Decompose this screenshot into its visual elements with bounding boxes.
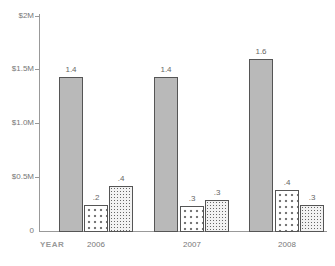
value-label-2007-c: .3 bbox=[202, 188, 232, 197]
bar-2006-series-2 bbox=[84, 205, 108, 232]
y-tick-label-1-0m: $1.0M bbox=[0, 118, 34, 127]
value-label-2007-a: 1.4 bbox=[151, 65, 181, 74]
bar-2006-series-1 bbox=[59, 77, 83, 232]
x-label-2006: 2006 bbox=[76, 240, 116, 249]
y-tick bbox=[35, 16, 40, 17]
y-tick bbox=[35, 177, 40, 178]
bar-2008-series-1 bbox=[249, 59, 273, 232]
bar-2007-series-3 bbox=[205, 200, 229, 232]
bar-2008-series-2 bbox=[275, 190, 299, 232]
value-label-2006-b: .2 bbox=[81, 193, 111, 202]
value-label-2006-a: 1.4 bbox=[56, 65, 86, 74]
y-tick bbox=[35, 69, 40, 70]
y-tick bbox=[35, 123, 40, 124]
bar-2008-series-3 bbox=[300, 205, 324, 232]
y-tick-label-2m: $2M bbox=[0, 11, 34, 20]
bar-2007-series-2 bbox=[180, 206, 204, 232]
x-label-2008: 2008 bbox=[267, 240, 307, 249]
y-tick-label-1-5m: $1.5M bbox=[0, 64, 34, 73]
value-label-2008-a: 1.6 bbox=[246, 47, 276, 56]
value-label-2008-c: .3 bbox=[297, 193, 327, 202]
x-label-2007: 2007 bbox=[172, 240, 212, 249]
bar-2006-series-3 bbox=[109, 186, 133, 232]
value-label-2008-b: .4 bbox=[272, 178, 302, 187]
y-tick-label-0-5m: $0.5M bbox=[0, 172, 34, 181]
y-tick-label-0: 0 bbox=[0, 226, 34, 235]
value-label-2006-c: .4 bbox=[106, 174, 136, 183]
x-axis-title: YEAR bbox=[40, 240, 64, 249]
bar-2007-series-1 bbox=[154, 77, 178, 232]
